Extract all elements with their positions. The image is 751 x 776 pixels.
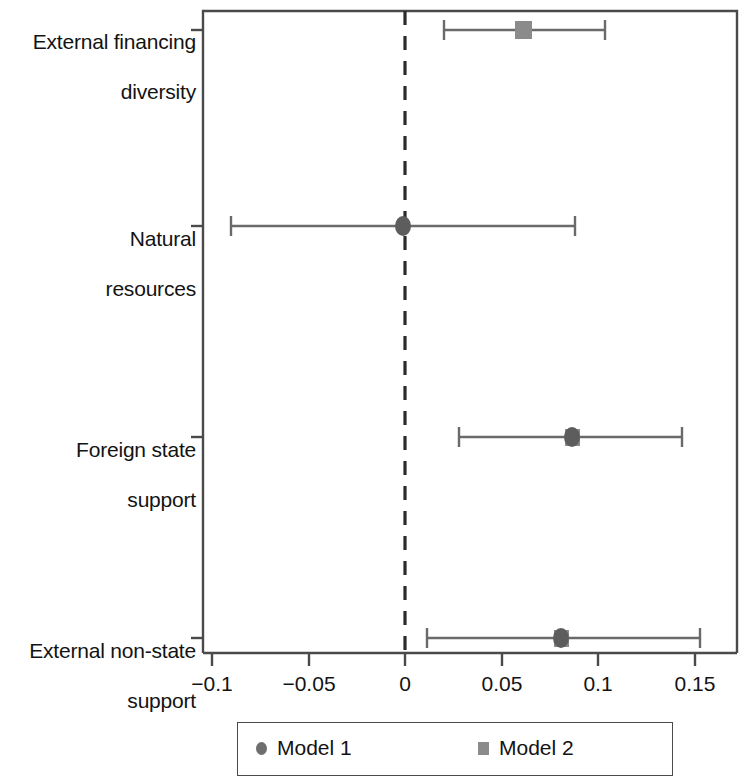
x-axis-tick-label: 0 (399, 672, 411, 696)
legend-square-marker-icon (478, 742, 489, 755)
legend-circle-marker-icon (256, 742, 267, 755)
estimate-row-foreign-state-support (459, 427, 682, 447)
estimate-marker-model1 (395, 216, 411, 236)
estimate-row-natural-resources (231, 216, 575, 236)
estimate-marker-model2 (515, 21, 532, 39)
legend-entry-model2: Model 2 (478, 736, 574, 760)
plot-area (0, 0, 751, 700)
estimate-marker-model1 (564, 427, 580, 447)
legend-box: Model 1 Model 2 (237, 722, 673, 776)
x-axis-tick-label: −0.05 (282, 672, 335, 696)
legend-entry-model1: Model 1 (256, 736, 352, 760)
legend-label-model2: Model 2 (499, 736, 574, 760)
estimate-row-external-financing-diversity (444, 20, 605, 40)
estimate-row-external-non-state-support (427, 628, 700, 648)
x-axis-tick-label: 0.1 (583, 672, 612, 696)
legend-label-model1: Model 1 (277, 736, 352, 760)
x-axis-tick-label: 0.05 (482, 672, 523, 696)
x-axis-tick-label: −0.1 (191, 672, 232, 696)
x-axis-tick-label: 0.15 (675, 672, 716, 696)
plot-frame (203, 11, 737, 653)
coefficient-plot-figure: External financing diversity Natural res… (0, 0, 751, 776)
y-axis-ticks (191, 30, 203, 638)
x-axis-ticks (212, 653, 695, 666)
estimate-marker-model1 (553, 628, 569, 648)
